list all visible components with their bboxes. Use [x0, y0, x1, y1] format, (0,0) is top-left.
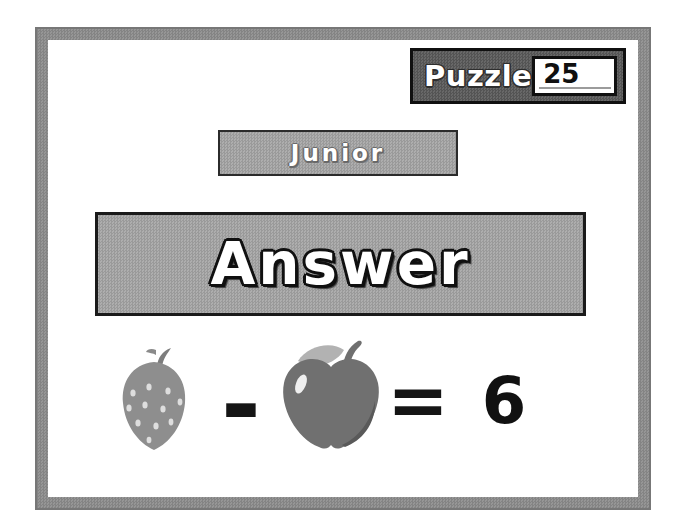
level-banner-label: Junior	[291, 140, 385, 166]
answer-button-label: Answer	[210, 230, 470, 298]
puzzle-screen: Puzzle Junior Answer	[0, 0, 675, 531]
puzzle-panel: Puzzle	[410, 48, 626, 104]
answer-button[interactable]: Answer	[95, 212, 586, 316]
level-banner: Junior	[218, 130, 458, 176]
input-underline	[539, 87, 611, 89]
puzzle-label: Puzzle	[424, 59, 532, 93]
puzzle-number-field[interactable]	[532, 56, 617, 96]
